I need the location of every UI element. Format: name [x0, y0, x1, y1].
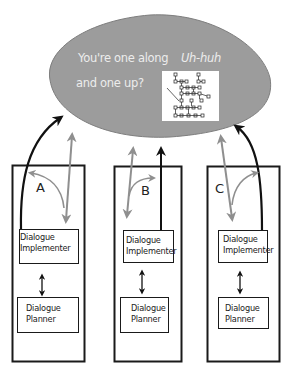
agent-b-implementer-line1: Dialogue: [126, 235, 177, 246]
response-text: Uh-huh: [181, 51, 221, 65]
agent-b-planner-line1: Dialogue: [131, 303, 166, 314]
agent-c-planner-label: Dialogue Planner: [225, 303, 260, 325]
agent-a-perception-arrow: [66, 136, 72, 220]
agent-b-implementer-label: Dialogue Implementer: [126, 235, 177, 257]
agent-b-planner-label: Dialogue Planner: [131, 303, 166, 325]
agent-c-output-arrow: [237, 127, 262, 230]
agent-b-perception-arrow: [127, 150, 133, 215]
agent-a-implementer-line2: Implementer: [20, 243, 71, 254]
agent-a-output-arrow: [21, 118, 60, 229]
agent-a-planner-line2: Planner: [26, 314, 61, 325]
agent-a-planner-line1: Dialogue: [26, 303, 61, 314]
agent-a-label: A: [36, 180, 45, 195]
agent-c-self-monitor-arrow: [232, 173, 256, 205]
node-graph-thumbnail: [162, 71, 219, 121]
agent-c-implementer-line1: Dialogue: [223, 234, 274, 245]
agent-a-implementer-line1: Dialogue: [20, 232, 71, 243]
agent-c-label: C: [215, 181, 224, 196]
agent-b-label: B: [141, 183, 150, 198]
agent-c-implementer-label: Dialogue Implementer: [223, 234, 274, 256]
agent-a-implementer-label: Dialogue Implementer: [20, 232, 71, 254]
agent-b-planner-line2: Planner: [131, 314, 166, 325]
utterance-line-1: You're one along: [78, 51, 168, 65]
agent-c-perception-arrow: [221, 138, 232, 218]
agent-a-planner-label: Dialogue Planner: [26, 303, 61, 325]
utterance-line-2: and one up?: [76, 76, 144, 90]
agent-c-implementer-line2: Implementer: [223, 245, 274, 256]
agent-c-planner-line1: Dialogue: [225, 303, 260, 314]
agent-c-planner-line2: Planner: [225, 314, 260, 325]
agent-b-implementer-line2: Implementer: [126, 246, 177, 257]
